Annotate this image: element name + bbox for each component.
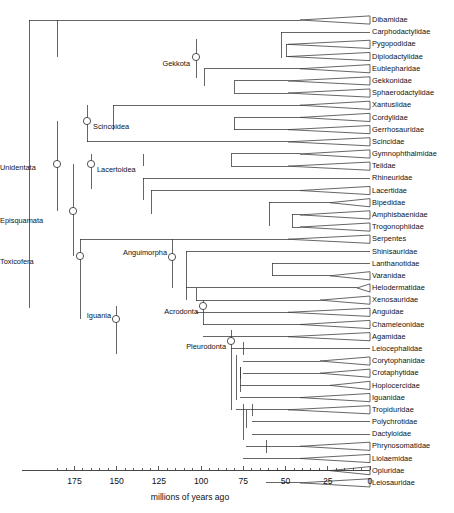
tip-label-eublepharidae: Eublepharidae [372, 65, 420, 72]
clade-label-unidentata: Unidentata [0, 164, 18, 171]
taxon-wedge-serpentes [288, 235, 370, 243]
clade-label-scincoidea: Scincoidea [93, 123, 129, 130]
tip-label-bipedidae: Bipedidae [372, 199, 405, 206]
tip-label-crotaphytidae: Crotaphytidae [372, 369, 419, 376]
clade-node-marker-unidentata [53, 160, 60, 167]
tip-label-agamidae: Agamidae [372, 333, 406, 340]
tip-label-shinisauridae: Shinisauridae [372, 248, 417, 255]
clade-label-toxicofera: Toxicofera [0, 258, 30, 265]
tip-label-polychrotidae: Polychrotidae [372, 418, 417, 425]
taxon-wedge-bipedidae [330, 199, 370, 207]
tip-label-scincidae: Scincidae [372, 138, 405, 145]
clade-label-pleurodonta: Pleurodonta [0, 343, 226, 350]
taxon-wedge-crotaphytidae [320, 369, 370, 377]
clade-node-marker-episquamata [69, 207, 76, 214]
clade-label-lacertoidea: Lacertoidea [97, 166, 136, 173]
tip-label-hoplocercidae: Hoplocercidae [372, 382, 420, 389]
clade-node-marker-pleurodonta [227, 337, 234, 344]
taxon-wedge-tropiduridae [288, 406, 370, 414]
axis-tick-label-75: 75 [223, 476, 263, 486]
tip-label-chameleonidae: Chameleonidae [372, 321, 424, 328]
taxon-wedge-pygopodidae [288, 40, 370, 48]
tip-label-lanthanotidae: Lanthanotidae [372, 260, 420, 267]
clade-node-marker-gekkota [192, 53, 199, 60]
clade-label-anguimorpha: Anguimorpha [0, 249, 167, 256]
axis-tick-label-175: 175 [55, 476, 95, 486]
tip-label-xantusiidae: Xantusiidae [372, 101, 411, 108]
tip-label-varanidae: Varanidae [372, 272, 406, 279]
taxon-wedge-chameleonidae [300, 320, 370, 328]
taxon-wedge-corytophanidae [320, 357, 370, 365]
tip-label-gymnophthalmidae: Gymnophthalmidae [372, 150, 437, 157]
tip-label-carphodactylidae: Carphodactylidae [372, 28, 430, 35]
taxon-wedge-sphaerodactylidae [288, 89, 370, 97]
tip-label-pygopodidae: Pygopodidae [372, 40, 416, 47]
tip-label-dibamidae: Dibamidae [372, 16, 408, 23]
taxon-wedge-cordylidae [300, 113, 370, 121]
tip-label-teiidae: Teiidae [372, 162, 396, 169]
clade-node-marker-lacertoidea [87, 160, 94, 167]
tip-label-opluridae: Opluridae [372, 467, 405, 474]
tip-label-lacertidae: Lacertidae [372, 187, 407, 194]
taxon-wedge-eublepharidae [300, 65, 370, 73]
taxon-wedge-gerrhosauridae [288, 126, 370, 134]
clade-label-acrodonta: Acrodonta [0, 308, 198, 315]
taxon-wedge-liolaemidae [300, 454, 370, 462]
tip-label-xenosauridae: Xenosauridae [372, 296, 418, 303]
taxon-wedge-gekkonidae [288, 77, 370, 85]
taxon-wedge-diplodactylidae [288, 52, 370, 60]
tip-label-trogonophiidae: Trogonophiidae [372, 223, 424, 230]
taxon-wedge-scincidae [288, 138, 370, 146]
clade-node-marker-acrodonta [199, 302, 206, 309]
tip-label-dactyloidae: Dactyloidae [372, 430, 411, 437]
clade-node-marker-scincoidea [83, 117, 90, 124]
taxon-wedge-phrynosomatidae [300, 442, 370, 450]
axis-tick-label-25: 25 [308, 476, 348, 486]
axis-tick-label-50: 50 [266, 476, 306, 486]
tip-label-liolaemidae: Liolaemidae [372, 455, 412, 462]
clade-label-gekkota: Gekkota [0, 60, 190, 67]
axis-tick-label-100: 100 [181, 476, 221, 486]
taxon-wedge-opluridae [330, 467, 370, 475]
taxon-wedge-agamidae [288, 333, 370, 341]
taxon-wedge-xenosauridae [320, 296, 370, 304]
taxon-wedge-lacertidae [300, 186, 370, 194]
axis-tick-label-0: 0 [350, 476, 390, 486]
clade-node-marker-iguania [112, 315, 119, 322]
taxon-wedge-iguanidae [300, 393, 370, 401]
taxon-wedge-helodermatidae [357, 284, 370, 292]
tip-label-anguidae: Anguidae [372, 308, 404, 315]
tip-label-rhineuridae: Rhineuridae [372, 174, 412, 181]
tip-label-corytophanidae: Corytophanidae [372, 357, 425, 364]
axis-title: millions of years ago [0, 492, 380, 502]
taxon-wedge-xantusiidae [300, 101, 370, 109]
taxon-wedge-dibamidae [300, 16, 370, 24]
tip-label-amphisbaenidae: Amphisbaenidae [372, 211, 428, 218]
tip-label-cordylidae: Cordylidae [372, 114, 408, 121]
taxon-wedge-teiidae [288, 162, 370, 170]
tip-label-gerrhosauridae: Gerrhosauridae [372, 126, 424, 133]
tip-label-tropiduridae: Tropiduridae [372, 406, 414, 413]
tip-label-diplodactylidae: Diplodactylidae [372, 53, 423, 60]
tip-label-iguanidae: Iguanidae [372, 394, 405, 401]
tip-label-phrynosomatidae: Phrynosomatidae [372, 442, 430, 449]
clade-label-episquamata: Episquamata [0, 217, 16, 224]
taxon-wedge-trogonophiidae [300, 223, 370, 231]
taxon-wedge-hoplocercidae [330, 381, 370, 389]
tip-label-sphaerodactylidae: Sphaerodactylidae [372, 89, 434, 96]
taxon-wedge-gymnophthalmidae [300, 150, 370, 158]
axis-tick-label-150: 150 [97, 476, 137, 486]
clade-node-marker-anguimorpha [168, 253, 175, 260]
phylogenetic-tree-figure: DibamidaeCarphodactylidaePygopodidaeDipl… [0, 0, 454, 513]
tip-label-helodermatidae: Helodermatidae [372, 284, 425, 291]
taxon-wedge-amphisbaenidae [300, 211, 370, 219]
axis-tick-label-125: 125 [139, 476, 179, 486]
taxon-wedge-anguidae [288, 308, 370, 316]
tip-label-gekkonidae: Gekkonidae [372, 77, 412, 84]
tip-label-leiocephalidae: Leiocephalidae [372, 345, 422, 352]
taxon-wedge-varanidae [330, 272, 370, 280]
tip-label-serpentes: Serpentes [372, 235, 406, 242]
